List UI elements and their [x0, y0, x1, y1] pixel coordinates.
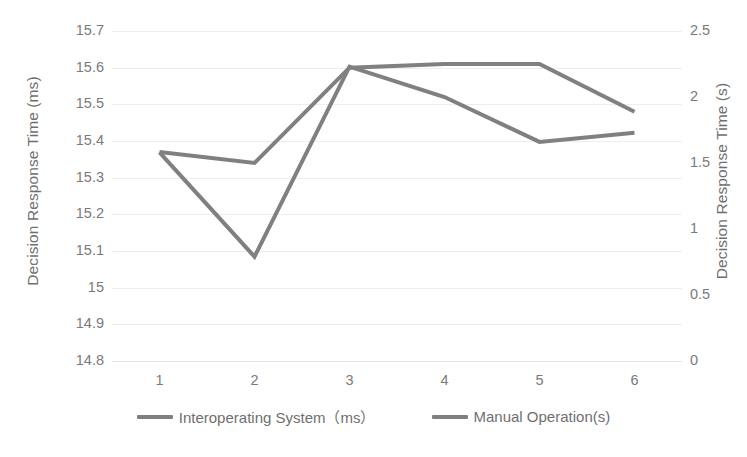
- legend-swatch-icon: [137, 415, 173, 419]
- series-line: [160, 64, 635, 163]
- legend-label: Interoperating System（ms）: [179, 406, 376, 427]
- chart-legend: Interoperating System（ms）Manual Operatio…: [0, 406, 747, 427]
- legend-item[interactable]: Manual Operation(s): [432, 408, 611, 425]
- legend-label: Manual Operation(s): [474, 408, 611, 425]
- legend-item[interactable]: Interoperating System（ms）: [137, 406, 376, 427]
- plot-area: [0, 0, 747, 457]
- chart-container: Decision Response Time (ms) Decision Res…: [0, 0, 747, 457]
- legend-swatch-icon: [432, 415, 468, 419]
